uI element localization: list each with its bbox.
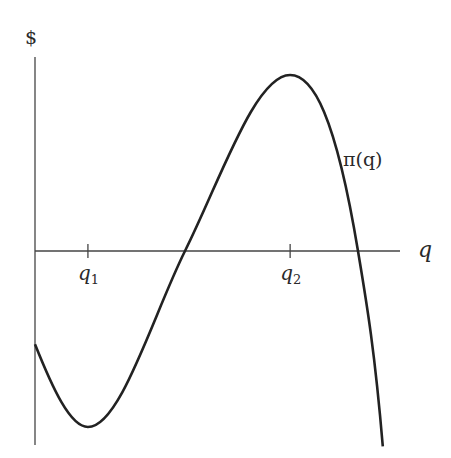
tick-label-q1: q1	[78, 261, 99, 287]
profit-diagram: $ q q1q2 π(q)	[0, 0, 451, 458]
y-axis-label: $	[25, 26, 37, 48]
x-axis-label: q	[418, 237, 432, 262]
tick-label-q2: q2	[280, 261, 301, 287]
curve-label: π(q)	[343, 148, 382, 170]
